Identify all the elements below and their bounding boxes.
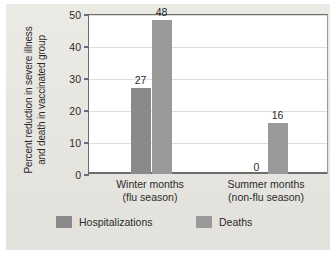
- y-axis-tick: 20: [69, 105, 89, 117]
- y-axis-title-line-1: Percent reduction in severe illness: [23, 26, 36, 173]
- bar-hospitalizations-winter: 27: [131, 88, 151, 174]
- y-axis-tick-mark: [84, 78, 89, 79]
- y-axis-tick: 10: [69, 137, 89, 149]
- legend-swatch-icon: [196, 216, 212, 228]
- y-axis-tick: 30: [69, 73, 89, 85]
- x-axis-line: [88, 172, 327, 174]
- bar-deaths-winter: 48: [152, 20, 172, 174]
- plot-area: 010203040502748016: [88, 14, 328, 174]
- y-axis-tick-label: 30: [69, 73, 81, 85]
- x-axis-category-summer-line-1: Summer months: [196, 178, 336, 191]
- y-axis-tick-label: 10: [69, 137, 81, 149]
- gridline: [89, 143, 327, 144]
- bar-value-label: 16: [272, 109, 284, 121]
- y-axis-tick: 50: [69, 9, 89, 21]
- legend-item-deaths[interactable]: Deaths: [196, 216, 252, 228]
- chart-figure: Percent reduction in severe illness and …: [0, 0, 336, 258]
- bar-deaths-summer: 16: [268, 123, 288, 174]
- y-axis-tick-mark: [84, 174, 89, 175]
- legend-label: Hospitalizations: [79, 216, 153, 228]
- y-axis-tick-label: 20: [69, 105, 81, 117]
- legend-label: Deaths: [219, 216, 252, 228]
- gridline: [89, 79, 327, 80]
- y-axis-tick-mark: [84, 142, 89, 143]
- chart-legend: HospitalizationsDeaths: [56, 216, 306, 234]
- y-axis-tick: 40: [69, 41, 89, 53]
- gridline: [89, 15, 327, 16]
- bar-value-label: 27: [135, 74, 147, 86]
- y-axis-tick-label: 50: [69, 9, 81, 21]
- gridline: [89, 111, 327, 112]
- bar-value-label-zero: 0: [254, 161, 260, 173]
- y-axis-tick-mark: [84, 14, 89, 15]
- legend-swatch-icon: [56, 216, 72, 228]
- y-axis-title: Percent reduction in severe illness and …: [12, 10, 58, 190]
- y-axis-tick-mark: [84, 110, 89, 111]
- y-axis-tick-mark: [84, 46, 89, 47]
- y-axis-tick-label: 40: [69, 41, 81, 53]
- x-axis-category-summer-line-2: (non-flu season): [196, 191, 336, 204]
- legend-item-hospitalizations[interactable]: Hospitalizations: [56, 216, 153, 228]
- bar-value-label: 48: [156, 6, 168, 18]
- x-axis-category-summer: Summer months (non-flu season): [196, 178, 336, 203]
- gridline: [89, 47, 327, 48]
- y-axis-title-line-2: and death in vaccinated group: [35, 26, 48, 173]
